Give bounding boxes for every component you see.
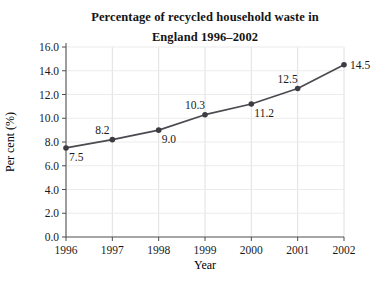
x-tick-label: 1996 [55, 244, 78, 256]
y-tick-label: 2.0 [45, 207, 60, 219]
x-tick-label: 2001 [286, 244, 309, 256]
x-tick-label: 1997 [101, 244, 124, 256]
y-axis-label: Per cent (%) [3, 112, 17, 172]
x-tick-label: 1999 [194, 244, 217, 256]
axis-tick-labels: 19961997199819992000200120020.02.04.06.0… [39, 41, 356, 256]
axis-ticks [62, 47, 344, 241]
data-label: 12.5 [278, 73, 298, 85]
y-tick-label: 8.0 [45, 136, 60, 148]
y-tick-label: 14.0 [39, 65, 59, 77]
x-tick-label: 2000 [240, 244, 263, 256]
x-tick-label: 2002 [333, 244, 356, 256]
data-label: 9.0 [162, 133, 177, 145]
data-point [110, 137, 116, 143]
data-point [202, 112, 208, 118]
data-point [249, 101, 255, 107]
data-label: 10.3 [185, 99, 205, 111]
y-tick-label: 16.0 [39, 41, 59, 53]
x-axis-label: Year [194, 258, 216, 272]
data-point [341, 62, 347, 68]
data-label: 8.2 [95, 124, 110, 136]
x-tick-label: 1998 [147, 244, 170, 256]
y-tick-label: 6.0 [45, 160, 60, 172]
y-tick-label: 10.0 [39, 112, 59, 124]
data-point [63, 145, 69, 151]
data-point [156, 127, 162, 133]
data-label: 11.2 [254, 107, 274, 119]
data-label: 7.5 [69, 151, 84, 163]
y-tick-label: 0.0 [45, 231, 60, 243]
chart-figure: Percentage of recycled household waste i… [0, 0, 376, 284]
gridlines [66, 47, 344, 237]
y-tick-label: 4.0 [45, 184, 60, 196]
data-label: 14.5 [350, 59, 370, 71]
line-chart: 19961997199819992000200120020.02.04.06.0… [0, 0, 376, 284]
y-tick-label: 12.0 [39, 89, 59, 101]
data-point [295, 86, 301, 92]
